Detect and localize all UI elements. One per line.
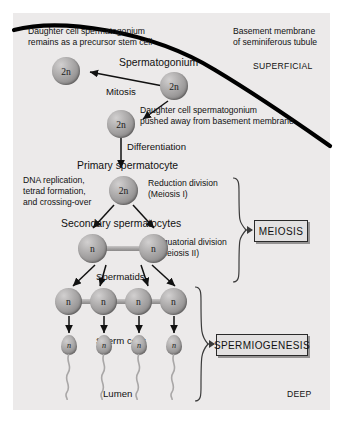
stage-box-spermiogenesis: SPERMIOGENESIS (216, 334, 308, 356)
sperm-head-4: n (166, 335, 182, 355)
sperm-head-2: n (96, 335, 112, 355)
label-basement-membrane-line1: Basement membrane (233, 27, 315, 37)
label-primary-spermatocyte: Primary spermatocyte (77, 160, 178, 172)
sperm-head-3: n (131, 335, 147, 355)
sperm-tail-4 (165, 354, 185, 400)
arrow-meiosis2-a (73, 265, 95, 286)
cell-stem-spermatogonium: 2n (52, 57, 80, 85)
label-superficial: SUPERFICIAL (253, 62, 313, 72)
cell-secondary-spermatocyte-2: n (139, 234, 168, 263)
label-daughter-pushed-line1: Daughter cell spermatogonium (140, 106, 257, 116)
label-spermatids: Spermatids (96, 272, 145, 283)
stage-box-meiosis: MEIOSIS (254, 220, 308, 242)
label-differentiation: Differentiation (127, 142, 186, 153)
arrow-mitosis-to-stem (90, 72, 163, 86)
cell-primary-spermatocyte: 2n (109, 176, 138, 205)
cell-spermatid-1: n (55, 288, 82, 315)
cell-spermatid-2: n (90, 288, 117, 315)
label-dna-line2: tetrad formation, (23, 187, 86, 197)
label-spermatogonium: Spermatogonium (119, 57, 198, 69)
label-basement-membrane-line2: of seminiferous tubule (233, 38, 317, 48)
spermatogenesis-figure: Daughter cell spermatogonium remains as … (0, 0, 343, 435)
cell-daughter-pushed: 2n (107, 110, 135, 138)
label-daughter-pushed-line2: pushed away from basement membrane (140, 117, 294, 127)
sperm-head-1: n (61, 335, 77, 355)
label-reduction-division-line1: Reduction division (148, 179, 218, 189)
label-daughter-stem-line2: remains as a precursor stem cell (28, 38, 152, 48)
cytoplasmic-bridge-secondary (105, 246, 141, 251)
label-reduction-division-line2: (Meiosis I) (148, 190, 188, 200)
sperm-tail-2 (95, 354, 115, 400)
label-dna-line3: and crossing-over (23, 198, 91, 208)
meiosis-brace (233, 178, 246, 282)
cell-secondary-spermatocyte-1: n (78, 234, 107, 263)
label-deep: DEEP (287, 390, 312, 400)
sperm-tail-1 (60, 354, 80, 400)
meiosis-brace-arrowhead (247, 226, 253, 234)
arrow-meiosis2-d (152, 265, 175, 286)
label-daughter-stem-line1: Daughter cell spermatogonium (28, 27, 145, 37)
sperm-tail-3 (130, 354, 150, 400)
cell-spermatid-4: n (160, 288, 187, 315)
label-dna-line1: DNA replication, (23, 176, 85, 186)
spermiogenesis-brace (195, 287, 208, 401)
label-mitosis: Mitosis (106, 87, 136, 98)
label-secondary-spermatocytes: Secondary spermatocytes (61, 218, 181, 230)
cell-spermatid-3: n (125, 288, 152, 315)
cell-spermatogonium: 2n (160, 72, 188, 100)
